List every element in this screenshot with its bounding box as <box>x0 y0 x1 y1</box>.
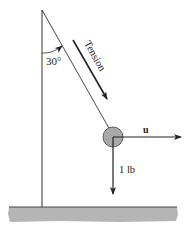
angle-arc <box>42 46 62 53</box>
angle-label: 30° <box>46 55 61 67</box>
pendulum-force-diagram: 30° Tension u 1 lb <box>0 0 192 231</box>
weight-label: 1 lb <box>119 164 135 175</box>
ground <box>8 207 178 222</box>
tension-label: Tension <box>82 39 108 74</box>
u-label: u <box>143 124 149 135</box>
